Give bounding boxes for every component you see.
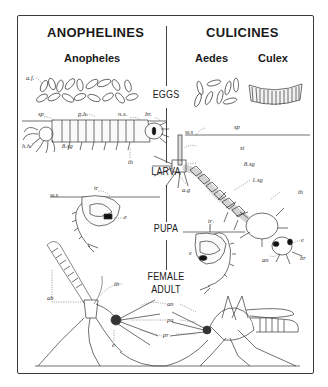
- label-an-larva: an: [262, 256, 269, 263]
- label-e-pupa-left: e: [124, 213, 127, 220]
- label-tr-left: tr: [94, 184, 98, 191]
- label-ws-pupa: w.s: [50, 191, 58, 198]
- label-th-left: th: [128, 158, 133, 165]
- label-sp-left: sp: [38, 110, 44, 117]
- label-e-adult: e: [112, 341, 115, 348]
- label-ph: p.h.: [78, 110, 88, 117]
- label-e-pupa-right: e: [189, 249, 192, 256]
- culex-adult: [170, 296, 298, 366]
- label-br-left: br.: [145, 110, 152, 117]
- label-br-right: br: [300, 254, 306, 261]
- label-th-right: th: [298, 188, 303, 195]
- label-sp-right: sp: [234, 123, 240, 130]
- label-ws-larva: w.s: [185, 128, 193, 135]
- label-ab: ab: [47, 294, 54, 301]
- label-ag: a.g: [182, 186, 190, 193]
- anopheles-pupa: [72, 196, 120, 252]
- label-ns: n.s.: [118, 110, 127, 117]
- label-th-adult: th: [114, 280, 119, 287]
- label-af: a.f.: [26, 74, 34, 81]
- label-hh: h.h: [22, 142, 30, 149]
- aedes-eggs: [193, 78, 238, 107]
- anopheles-eggs: [35, 77, 138, 104]
- anopheles-larva: [23, 120, 169, 153]
- culex-pupa: [195, 224, 236, 294]
- label-tr-right: tr: [208, 217, 212, 224]
- culex-larva: [152, 135, 302, 264]
- label-8sg-left: 8.sg: [62, 142, 73, 149]
- label-e-larva: e: [301, 236, 304, 243]
- anopheles-adult: [38, 242, 160, 367]
- label-an-adult: an: [167, 300, 174, 307]
- label-st: st: [240, 144, 244, 151]
- label-pa: pa: [167, 316, 174, 323]
- label-8sg-right: 8.sg: [244, 160, 255, 167]
- label-1sg: 1.sg: [252, 176, 263, 183]
- culex-egg-raft: [249, 84, 302, 105]
- label-pr: pr: [163, 331, 169, 338]
